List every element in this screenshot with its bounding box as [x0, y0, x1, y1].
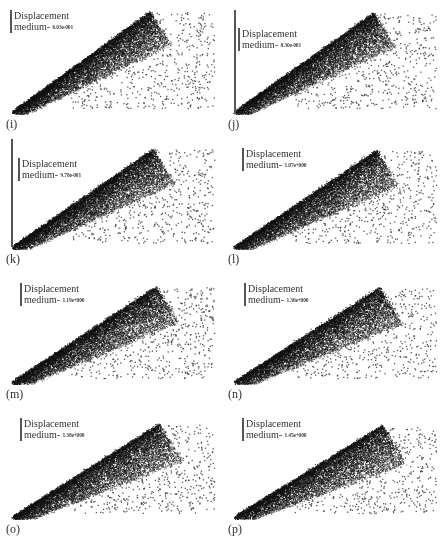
- panel-j: Displacement medium- 8.30e-001 (j): [222, 0, 444, 134]
- legend-title: Displacement: [14, 10, 73, 21]
- legend-value: 9.78e-001: [61, 172, 81, 178]
- scatter-plot: [222, 0, 444, 134]
- legend-title: Displacement: [24, 418, 84, 429]
- legend-prefix: medium-: [22, 169, 58, 180]
- scatter-plot: [0, 135, 222, 269]
- legend-value: 1.19e+000: [63, 297, 85, 303]
- panel-caption: (j): [228, 117, 239, 132]
- legend-title: Displacement: [246, 148, 306, 159]
- panel-caption: (p): [228, 522, 242, 537]
- legend: Displacement medium- 1.38e+000: [24, 418, 84, 441]
- legend-title: Displacement: [24, 283, 84, 294]
- legend-bar: [18, 158, 20, 181]
- legend-prefix: medium-: [246, 159, 282, 170]
- axis-line: [234, 10, 236, 114]
- panel-m: Displacement medium- 1.19e+000 (m): [0, 270, 222, 404]
- legend-value: 6.03e-001: [53, 24, 73, 30]
- panel-p: Displacement medium- 1.45e+000 (p): [222, 405, 444, 538]
- legend-title: Displacement: [248, 283, 308, 294]
- legend-bar: [10, 10, 12, 33]
- legend: Displacement medium- 1.07e+000: [246, 148, 306, 171]
- legend-title: Displacement: [22, 158, 81, 169]
- legend-prefix: medium-: [14, 21, 50, 32]
- legend-bar: [242, 418, 244, 441]
- legend-title: Displacement: [242, 28, 301, 39]
- panel-k: Displacement medium- 9.78e-001 (k): [0, 135, 222, 269]
- legend-value: 1.30e+000: [287, 297, 309, 303]
- legend-prefix: medium-: [246, 429, 282, 440]
- panel-caption: (l): [228, 252, 239, 267]
- legend-title: Displacement: [246, 418, 306, 429]
- panel-caption: (o): [6, 522, 20, 537]
- legend-value: 1.45e+000: [285, 432, 307, 438]
- legend: Displacement medium- 9.78e-001: [22, 158, 81, 181]
- legend-prefix: medium-: [248, 294, 284, 305]
- legend: Displacement medium- 6.03e-001: [14, 10, 73, 33]
- panel-caption: (i): [6, 117, 17, 132]
- legend-prefix: medium-: [242, 39, 278, 50]
- figure-grid: Displacement medium- 6.03e-001 (i) Displ…: [0, 0, 444, 538]
- legend-value: 8.30e-001: [281, 42, 301, 48]
- legend: Displacement medium- 1.19e+000: [24, 283, 84, 306]
- legend-value: 1.07e+000: [285, 162, 307, 168]
- legend-bar: [242, 148, 244, 171]
- panel-caption: (m): [6, 387, 23, 402]
- legend-bar: [238, 28, 240, 51]
- panel-i: Displacement medium- 6.03e-001 (i): [0, 0, 222, 134]
- legend-prefix: medium-: [24, 429, 60, 440]
- legend: Displacement medium- 8.30e-001: [242, 28, 301, 51]
- legend: Displacement medium- 1.45e+000: [246, 418, 306, 441]
- legend-bar: [20, 418, 22, 441]
- legend: Displacement medium- 1.30e+000: [248, 283, 308, 306]
- legend-value: 1.38e+000: [63, 432, 85, 438]
- axis-line: [11, 139, 13, 247]
- panel-caption: (k): [6, 252, 20, 267]
- panel-o: Displacement medium- 1.38e+000 (o): [0, 405, 222, 538]
- panel-n: Displacement medium- 1.30e+000 (n): [222, 270, 444, 404]
- panel-caption: (n): [228, 387, 242, 402]
- legend-prefix: medium-: [24, 294, 60, 305]
- legend-bar: [20, 283, 22, 306]
- panel-l: Displacement medium- 1.07e+000 (l): [222, 135, 444, 269]
- legend-bar: [244, 283, 246, 306]
